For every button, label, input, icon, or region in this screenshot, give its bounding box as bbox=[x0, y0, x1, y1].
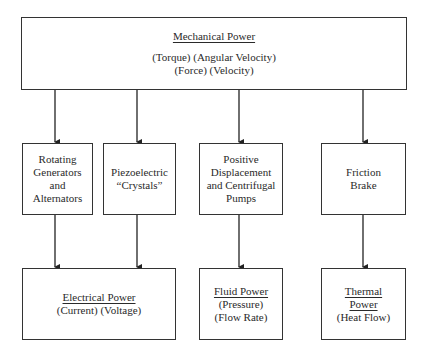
output-label: (Flow Rate) bbox=[215, 311, 268, 324]
mechanical-power-line-1: (Torque) (Angular Velocity) bbox=[152, 51, 276, 64]
pumps-box: Positive Displacement and Centrifugal Pu… bbox=[199, 143, 283, 215]
output-title: Electrical Power bbox=[63, 291, 136, 304]
converter-label: Rotating bbox=[39, 153, 77, 166]
converter-label: Alternators bbox=[33, 192, 82, 205]
converter-label: Displacement bbox=[211, 166, 271, 179]
output-title: Fluid Power bbox=[214, 285, 268, 298]
mechanical-power-box: Mechanical Power (Torque) (Angular Veloc… bbox=[21, 17, 407, 90]
piezoelectric-crystals-box: Piezoelectric “Crystals” bbox=[103, 143, 176, 215]
output-label: (Current) (Voltage) bbox=[57, 304, 141, 317]
converter-label: Friction bbox=[346, 166, 381, 179]
mechanical-power-line-2: (Force) (Velocity) bbox=[174, 64, 253, 77]
converter-label: Brake bbox=[350, 179, 376, 192]
converter-label: and bbox=[50, 179, 66, 192]
thermal-power-box: Thermal Power (Heat Flow) bbox=[321, 268, 406, 340]
electrical-power-box: Electrical Power (Current) (Voltage) bbox=[22, 268, 176, 340]
output-label: (Heat Flow) bbox=[337, 311, 390, 324]
converter-label: and Centrifugal bbox=[207, 179, 276, 192]
converter-label: “Crystals” bbox=[117, 179, 163, 192]
output-label: (Pressure) bbox=[219, 298, 264, 311]
rotating-generators-box: Rotating Generators and Alternators bbox=[22, 143, 93, 215]
converter-label: Generators bbox=[33, 166, 81, 179]
converter-label: Positive bbox=[223, 153, 258, 166]
friction-brake-box: Friction Brake bbox=[321, 143, 406, 215]
converter-label: Pumps bbox=[226, 192, 256, 205]
fluid-power-box: Fluid Power (Pressure) (Flow Rate) bbox=[199, 268, 283, 340]
converter-label: Piezoelectric bbox=[111, 166, 168, 179]
mechanical-power-title: Mechanical Power bbox=[173, 30, 255, 43]
output-title: Thermal bbox=[345, 285, 382, 298]
output-title: Power bbox=[349, 298, 377, 311]
